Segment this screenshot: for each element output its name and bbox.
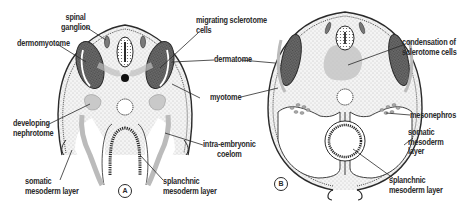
panel-a-marker: A [118, 184, 132, 198]
label-intra-embryonic-coelom: intra-embryonic coelom [203, 140, 256, 159]
label-text: somatic mesoderm layer [25, 176, 79, 196]
label-text: spinal ganglion [61, 12, 90, 32]
label-text: splanchnic mesoderm layer [163, 176, 217, 196]
label-myotome: myotome [210, 93, 241, 103]
label-text: mesonephros [410, 110, 456, 120]
label-text: myotome [210, 92, 241, 102]
label-text: migrating sclerotome cells [196, 15, 267, 35]
embryo-cross-section-figure: spinal ganglion dermomyotome migrating s… [0, 0, 462, 204]
label-text: somatic mesoderm layer [408, 127, 444, 156]
label-text: dermomyotome [17, 38, 70, 48]
label-dermomyotome: dermomyotome [17, 39, 70, 49]
label-text: condensation of sclerotome cells [402, 37, 457, 57]
label-somatic-mesoderm-a: somatic mesoderm layer [25, 177, 79, 196]
label-migrating-sclerotome-cells: migrating sclerotome cells [196, 16, 267, 35]
label-text: splanchnic mesoderm layer [389, 175, 443, 195]
panel-b-drawing [268, 12, 422, 200]
label-spinal-ganglion: spinal ganglion [61, 13, 90, 32]
label-condensation-sclerotome-cells: condensation of sclerotome cells [402, 38, 457, 57]
panel-letter: B [278, 180, 283, 187]
label-dermatome: dermatome [214, 55, 252, 65]
label-text: developing nephrotome [13, 118, 54, 138]
panel-letter: A [122, 187, 127, 194]
label-developing-nephrotome: developing nephrotome [13, 119, 54, 138]
label-mesonephros: mesonephros [410, 111, 456, 121]
label-text: intra-embryonic coelom [203, 140, 256, 159]
label-splanchnic-mesoderm-b: splanchnic mesoderm layer [389, 176, 443, 195]
label-text: dermatome [214, 54, 252, 64]
panel-b-marker: B [274, 177, 288, 191]
label-somatic-mesoderm-b: somatic mesoderm layer [408, 128, 444, 157]
label-splanchnic-mesoderm-a: splanchnic mesoderm layer [163, 177, 217, 196]
panel-a-drawing [58, 25, 192, 190]
